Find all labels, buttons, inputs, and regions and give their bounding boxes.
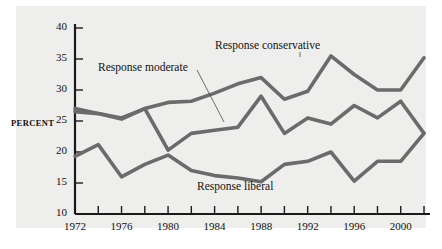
y-tick-label: 30: [41, 82, 67, 94]
x-tick-label: 1984: [195, 220, 235, 232]
y-tick-label: 25: [41, 113, 67, 125]
y-tick-label: 40: [41, 20, 67, 32]
figure-container: PERCENT 40353025201510 19721976198019841…: [0, 0, 442, 249]
x-tick-label: 1980: [148, 220, 188, 232]
x-tick-label: 1976: [102, 220, 142, 232]
y-tick-label: 35: [41, 51, 67, 63]
y-tick-label: 20: [41, 144, 67, 156]
series-label-moderate: Response moderate: [98, 61, 188, 73]
series-line-liberal: [75, 133, 424, 181]
x-tick-label: 1996: [334, 220, 374, 232]
y-tick-label: 10: [41, 206, 67, 218]
x-axis-ticks: [75, 206, 424, 214]
series-label-liberal: Response liberal: [197, 180, 273, 192]
series-label-conservative: Response conservative: [215, 39, 320, 51]
series-group: [75, 56, 424, 182]
x-tick-label: 1992: [288, 220, 328, 232]
y-tick-label: 15: [41, 175, 67, 187]
x-tick-label: 1988: [241, 220, 281, 232]
x-tick-label: 2000: [381, 220, 421, 232]
y-axis-ticks: [75, 28, 83, 214]
series-line-moderate: [75, 96, 424, 150]
x-tick-label: 1972: [55, 220, 95, 232]
